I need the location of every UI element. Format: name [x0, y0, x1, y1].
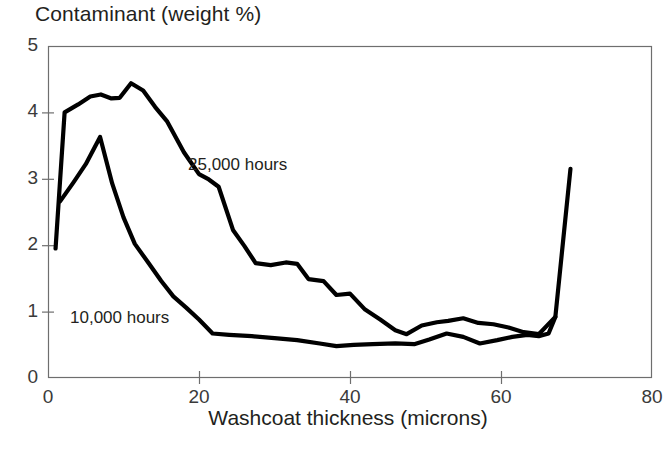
series-label-1: 25,000 hours — [188, 155, 287, 175]
y-tick-label: 3 — [12, 167, 38, 189]
y-tick-label: 5 — [12, 34, 38, 56]
x-axis-title-text: Washcoat thickness (microns) — [208, 406, 487, 429]
y-tick-label: 1 — [12, 300, 38, 322]
x-axis-title: Washcoat thickness (microns) — [0, 406, 672, 430]
chart-figure: Contaminant (weight %) 012345 020406080 … — [0, 0, 672, 452]
data-series-layer — [56, 83, 571, 346]
x-tick-label: 60 — [481, 386, 521, 408]
x-tick-label: 20 — [179, 386, 219, 408]
x-tick-label: 0 — [28, 386, 68, 408]
y-tick-label: 2 — [12, 233, 38, 255]
plot-area — [0, 0, 672, 452]
y-tick-label: 4 — [12, 100, 38, 122]
series-line-1 — [56, 83, 571, 334]
x-tick-label: 40 — [330, 386, 370, 408]
y-tick-label: 0 — [12, 366, 38, 388]
x-tick-label: 80 — [632, 386, 672, 408]
series-label-2: 10,000 hours — [70, 308, 169, 328]
axis-lines — [42, 47, 652, 385]
